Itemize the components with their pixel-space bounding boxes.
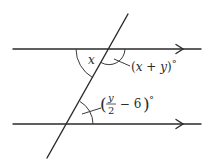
angle-x-label: x — [88, 53, 95, 67]
svg-text:(: ( — [100, 94, 107, 114]
angle-x-plus-y-label: (x + y)° — [131, 58, 177, 74]
svg-text:2: 2 — [108, 105, 114, 116]
svg-text:°: ° — [149, 94, 154, 105]
angle-y-half-label: ( y 2 − 6 ) ° — [100, 92, 154, 116]
svg-text:y: y — [107, 92, 114, 103]
parallel-lines-diagram: x (x + y)° ( y 2 − 6 ) ° — [0, 0, 214, 161]
angle-y-half-leader — [82, 108, 101, 114]
svg-text:− 6: − 6 — [116, 97, 141, 111]
transversal-line — [47, 14, 128, 158]
